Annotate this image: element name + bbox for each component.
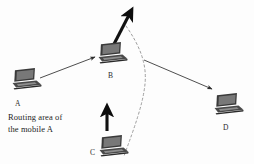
node-a-label: A — [15, 100, 21, 108]
node-c-label: C — [90, 149, 95, 157]
route-a-to-b — [40, 57, 95, 78]
node-d[interactable] — [212, 91, 246, 117]
node-b-label: B — [108, 72, 113, 80]
node-d-label: D — [223, 124, 229, 132]
route-boundary-to-d — [144, 60, 212, 89]
laptop-icon — [97, 133, 131, 159]
laptop-icon — [96, 40, 130, 66]
node-c[interactable] — [97, 133, 131, 159]
network-routing-diagram: A B C — [0, 0, 254, 164]
node-b[interactable] — [96, 40, 130, 66]
routing-area-caption-line1: Routing area of — [8, 112, 62, 124]
laptop-icon — [212, 91, 246, 117]
node-a[interactable] — [10, 66, 44, 92]
routing-area-caption-line2: the mobile A — [8, 124, 53, 136]
laptop-icon — [10, 66, 44, 92]
